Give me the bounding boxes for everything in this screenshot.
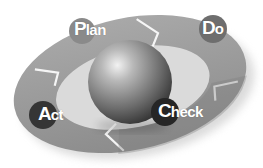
act-initial: A: [38, 103, 51, 124]
do-initial: D: [202, 17, 215, 38]
act-rest: ct: [51, 106, 63, 123]
stage-label-do: Do: [202, 18, 223, 37]
pdca-cycle-graphic: [0, 0, 263, 168]
plan-initial: P: [74, 18, 86, 39]
plan-rest: lan: [86, 21, 106, 38]
do-rest: o: [215, 20, 224, 37]
pdca-diagram: Plan Do Check Act: [0, 0, 263, 168]
stage-label-plan: Plan: [74, 19, 106, 38]
stage-label-act: Act: [38, 104, 63, 123]
check-rest: heck: [171, 103, 203, 120]
stage-label-check: Check: [158, 101, 203, 120]
check-initial: C: [158, 100, 171, 121]
